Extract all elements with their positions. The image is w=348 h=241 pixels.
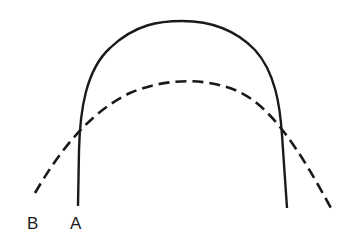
curve-a-solid bbox=[78, 21, 287, 208]
label-a: A bbox=[70, 215, 81, 232]
arch-diagram bbox=[0, 0, 348, 241]
label-b: B bbox=[27, 215, 38, 232]
